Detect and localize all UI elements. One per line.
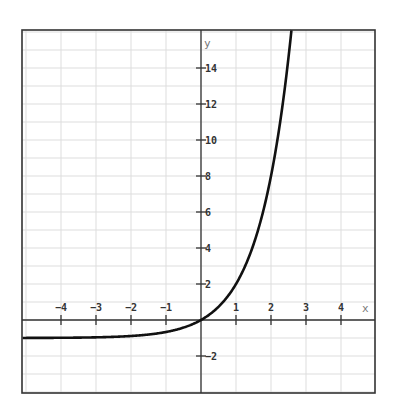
y-tick-label: 12: [205, 99, 217, 110]
y-tick-label: 4: [205, 243, 211, 254]
y-axis-label: y: [204, 37, 211, 50]
x-tick-label: −4: [55, 302, 67, 313]
x-axis-label: x: [362, 302, 369, 315]
function-plot: −4−3−2−11234−22468101214 x y: [0, 0, 396, 407]
y-tick-label: 6: [205, 207, 211, 218]
x-tick-label: −3: [90, 302, 102, 313]
y-tick-label: 8: [205, 171, 211, 182]
y-tick-label: 14: [205, 63, 217, 74]
x-tick-label: −2: [125, 302, 137, 313]
y-tick-label: −2: [205, 351, 217, 362]
function-curve: [23, 30, 292, 338]
y-tick-label: 2: [205, 279, 211, 290]
x-tick-label: 3: [303, 302, 309, 313]
x-tick-label: 2: [268, 302, 274, 313]
x-tick-label: −1: [160, 302, 172, 313]
x-tick-label: 1: [233, 302, 239, 313]
x-tick-label: 4: [338, 302, 344, 313]
y-tick-label: 10: [205, 135, 217, 146]
